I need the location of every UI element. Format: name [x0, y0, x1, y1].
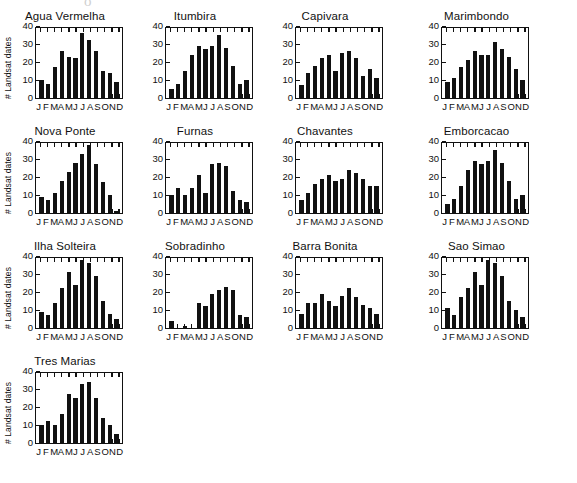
panel-placeholder [390, 353, 547, 468]
bar [368, 308, 372, 328]
panel-title: Nova Ponte [0, 125, 130, 137]
x-tick-label: F [173, 215, 179, 228]
plot-area: 010203040 [35, 27, 123, 99]
y-axis-label: # Landsat dates [1, 371, 15, 455]
x-tick-label: M [325, 215, 331, 228]
bar [210, 46, 214, 98]
x-axis-labels: JFMAMJJASOND [295, 100, 383, 113]
bar [114, 434, 118, 443]
x-tick-label: O [232, 330, 238, 343]
x-tick-label: A [87, 215, 93, 228]
bar [238, 200, 242, 213]
bar [500, 276, 504, 328]
bar [94, 164, 98, 213]
chart-panel: Ilha Solteira# Landsat dates010203040JFM… [0, 238, 130, 353]
y-tick-label: 10 [428, 75, 439, 85]
y-tick-label: 0 [158, 323, 163, 333]
bar [473, 272, 477, 328]
bar [514, 199, 518, 213]
x-tick-label: A [464, 330, 470, 343]
x-tick-label: A [318, 330, 324, 343]
x-tick-label: A [318, 100, 324, 113]
x-tick-label: M [180, 100, 186, 113]
y-tick-label: 20 [152, 57, 163, 67]
bar [73, 163, 77, 213]
x-axis-labels: JFMAMJJASOND [165, 330, 253, 343]
bar [244, 202, 248, 213]
bar [452, 315, 456, 328]
x-tick-label: O [362, 100, 368, 113]
bar [53, 67, 57, 98]
x-tick-label: M [65, 215, 71, 228]
bar [500, 163, 504, 213]
y-tick-label: 30 [152, 269, 163, 279]
x-tick-label: F [43, 330, 49, 343]
x-tick-label: F [43, 100, 49, 113]
bar [361, 305, 365, 328]
y-tick-label: 20 [152, 172, 163, 182]
y-tick-label: 30 [22, 269, 33, 279]
plot-area: 010203040 [295, 142, 383, 214]
x-tick-label: F [449, 330, 455, 343]
x-tick-label: A [493, 100, 499, 113]
bar-series [36, 143, 122, 213]
y-tick-label: 0 [288, 208, 293, 218]
bar [313, 66, 317, 98]
y-tick-label: 20 [428, 287, 439, 297]
bar [479, 164, 483, 213]
panel-title: Emborcacao [406, 125, 547, 137]
x-tick-label: J [72, 215, 78, 228]
y-tick-label: 40 [282, 136, 293, 146]
bar [60, 181, 64, 213]
bar [445, 82, 449, 98]
bar [327, 55, 331, 98]
x-tick-label: M [195, 215, 201, 228]
x-tick-label: M [195, 330, 201, 343]
bar [445, 308, 449, 328]
y-tick-label: 30 [22, 154, 33, 164]
x-tick-label: S [94, 330, 100, 343]
x-tick-label: A [217, 100, 223, 113]
x-axis-labels: JFMAMJJASOND [441, 330, 529, 343]
bar-series [36, 258, 122, 328]
x-tick-label: A [188, 330, 194, 343]
y-tick-label: 40 [152, 251, 163, 261]
bar [445, 204, 449, 213]
bar [493, 150, 497, 213]
x-tick-label: F [173, 100, 179, 113]
x-tick-label: N [109, 330, 115, 343]
x-tick-label: J [202, 215, 208, 228]
bar-series [36, 373, 122, 443]
panel-row: Ilha Solteira# Landsat dates010203040JFM… [0, 238, 577, 353]
x-tick-label: D [116, 100, 122, 113]
x-tick-label: D [522, 100, 528, 113]
x-tick-label: O [362, 215, 368, 228]
chart-panel: Barra Bonita010203040JFMAMJJASOND [260, 238, 390, 353]
bar-series [36, 28, 122, 98]
y-tick-label: 40 [152, 21, 163, 31]
bar [169, 89, 173, 98]
x-tick-label: M [456, 100, 462, 113]
bar [459, 67, 463, 98]
chart-panel: Agua Vermelha# Landsat dates010203040JFM… [0, 8, 130, 123]
x-tick-label: N [109, 100, 115, 113]
bar [114, 211, 118, 213]
bar [320, 179, 324, 213]
x-tick-label: M [471, 330, 477, 343]
x-tick-label: M [180, 330, 186, 343]
y-tick-label: 20 [428, 172, 439, 182]
bar [94, 398, 98, 443]
bar [299, 314, 303, 328]
bar [108, 73, 112, 98]
bar [80, 260, 84, 328]
y-tick-label: 20 [282, 287, 293, 297]
y-tick-label: 0 [434, 208, 439, 218]
x-tick-label: M [325, 100, 331, 113]
bar [101, 418, 105, 443]
chart-panel: Itumbira010203040JFMAMJJASOND [130, 8, 260, 123]
x-tick-label: A [58, 100, 64, 113]
bar-series [166, 143, 252, 213]
plot-area: 010203040 [441, 27, 529, 99]
bar [520, 317, 524, 328]
panel-title: Marimbondo [406, 10, 547, 22]
